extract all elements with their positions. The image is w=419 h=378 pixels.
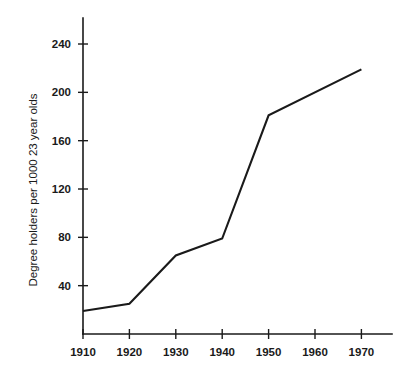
- y-tick-label: 40: [58, 280, 71, 292]
- line-chart: 4080120160200240 19101920193019401950196…: [0, 0, 419, 378]
- x-tick-label: 1920: [117, 346, 143, 358]
- y-tick-label: 160: [52, 135, 71, 147]
- y-axis-tick-labels: 4080120160200240: [52, 38, 71, 292]
- x-tick-label: 1910: [70, 346, 96, 358]
- x-tick-label: 1940: [209, 346, 235, 358]
- x-axis-tick-labels: 1910192019301940195019601970: [70, 346, 374, 358]
- chart-canvas: 4080120160200240 19101920193019401950196…: [0, 0, 419, 378]
- y-tick-label: 80: [58, 231, 71, 243]
- data-series-line: [83, 69, 361, 311]
- x-tick-label: 1960: [302, 346, 328, 358]
- x-tick-label: 1950: [256, 346, 282, 358]
- x-tick-label: 1930: [163, 346, 189, 358]
- y-tick-label: 200: [52, 86, 71, 98]
- y-axis-title: Degree holders per 1000 23 year olds: [27, 93, 39, 286]
- y-tick-label: 120: [52, 183, 71, 195]
- y-tick-label: 240: [52, 38, 71, 50]
- x-tick-label: 1970: [349, 346, 375, 358]
